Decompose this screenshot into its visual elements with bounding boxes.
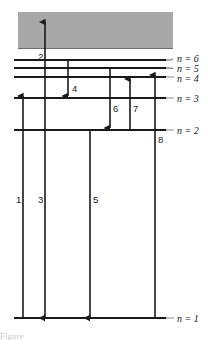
transition-label-3: 3 bbox=[38, 194, 43, 205]
level-label-n1: n = 1 bbox=[177, 313, 199, 324]
level-labels: n = 6n = 5n = 4n = 3n = 2n = 1 bbox=[166, 53, 199, 324]
level-label-n2: n = 2 bbox=[177, 125, 199, 136]
transition-label-6: 6 bbox=[113, 103, 118, 114]
transition-label-7: 7 bbox=[133, 103, 138, 114]
figure-caption: Figure bbox=[0, 332, 222, 340]
energy-level-diagram: 12345678 n = 6n = 5n = 4n = 3n = 2n = 1 … bbox=[0, 0, 222, 340]
diagram-canvas: 12345678 n = 6n = 5n = 4n = 3n = 2n = 1 bbox=[0, 0, 222, 340]
transition-label-2: 2 bbox=[38, 51, 43, 62]
level-label-n4: n = 4 bbox=[177, 73, 199, 84]
transition-label-8: 8 bbox=[158, 134, 163, 145]
transition-label-5: 5 bbox=[93, 194, 98, 205]
transitions: 12345678 bbox=[16, 22, 163, 318]
leader-line-n6 bbox=[166, 59, 173, 61]
continuum-band bbox=[18, 12, 173, 48]
continuum-band-group bbox=[18, 12, 173, 49]
transition-label-1: 1 bbox=[16, 194, 21, 205]
level-label-n3: n = 3 bbox=[177, 93, 199, 104]
transition-label-4: 4 bbox=[72, 83, 77, 94]
leader-line-n5 bbox=[166, 68, 173, 69]
